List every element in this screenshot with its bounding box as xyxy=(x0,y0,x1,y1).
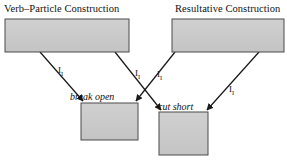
inheritance-label-subscript: I xyxy=(160,74,162,81)
edge-resultative-to-cut-short xyxy=(207,52,259,110)
inheritance-label-subscript: I xyxy=(138,73,140,80)
node-break-open xyxy=(81,103,138,140)
inheritance-label-resultative-cut-short: II xyxy=(229,84,234,96)
heading-resultative-construction: Resultative Construction xyxy=(175,3,281,14)
construction-inheritance-diagram: Verb–Particle Construction Resultative C… xyxy=(0,0,287,160)
inheritance-label-subscript: I xyxy=(61,70,63,77)
inheritance-label-resultative-break-open: II xyxy=(157,69,162,81)
node-cut-short xyxy=(159,112,208,155)
edge-resultative-to-break-open xyxy=(136,52,175,101)
inheritance-label-subscript: I xyxy=(232,89,234,96)
heading-verb-particle-construction: Verb–Particle Construction xyxy=(4,3,120,14)
edge-vpc-to-cut-short xyxy=(115,52,161,110)
node-resultative-construction xyxy=(172,19,284,52)
instance-label-break-open: break open xyxy=(70,91,114,102)
inheritance-label-vpc-cut-short: II xyxy=(135,68,140,80)
node-verb-particle-construction xyxy=(5,19,129,52)
diagram-canvas: Verb–Particle Construction Resultative C… xyxy=(0,0,287,160)
instance-label-cut-short: cut short xyxy=(158,101,194,112)
inheritance-label-vpc-break-open: II xyxy=(58,65,63,77)
